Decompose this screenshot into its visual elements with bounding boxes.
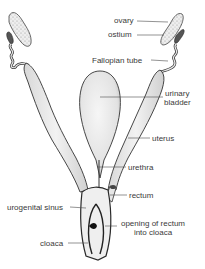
label-opening-line2: into cloaca xyxy=(116,228,190,237)
label-bladder: bladder xyxy=(164,98,191,107)
label-rectum: rectum xyxy=(129,191,153,200)
label-fallopian-tube: Fallopian tube xyxy=(92,56,142,65)
cloaca-body xyxy=(81,187,111,260)
right-fallopian-tube xyxy=(160,44,177,72)
label-uterus: uterus xyxy=(152,134,174,143)
label-opening-line1: opening of rectum xyxy=(116,219,190,228)
urinary-bladder xyxy=(80,71,121,178)
label-urinary: urinary xyxy=(165,89,189,98)
left-uterine-horn xyxy=(24,63,88,192)
label-ostium: ostium xyxy=(108,30,132,39)
reproductive-anatomy-diagram: ovary ostium Fallopian tube urinary blad… xyxy=(0,0,205,269)
label-urethra: urethra xyxy=(128,163,153,172)
left-ostium xyxy=(7,32,14,44)
right-ovary xyxy=(161,13,183,45)
label-ovary: ovary xyxy=(114,16,134,25)
label-cloaca: cloaca xyxy=(40,239,63,248)
label-urogenital-sinus: urogenital sinus xyxy=(7,203,63,212)
